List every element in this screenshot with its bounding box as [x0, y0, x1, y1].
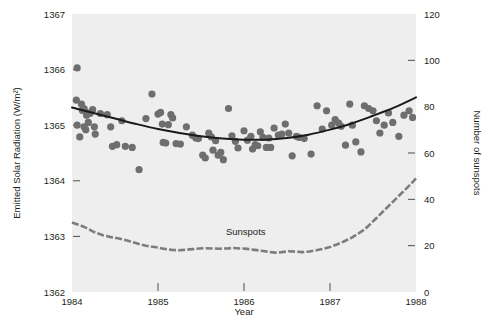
- y-tick-label-1367: 1367: [44, 9, 65, 20]
- x-tick-label-1985: 1985: [147, 296, 168, 307]
- scatter-point: [74, 122, 81, 129]
- scatter-point: [220, 156, 227, 163]
- y2-tick-label-80: 80: [424, 101, 435, 112]
- scatter-point: [278, 131, 285, 138]
- scatter-point: [165, 121, 172, 128]
- y2-tick-label-20: 20: [424, 240, 435, 251]
- scatter-point: [342, 142, 349, 149]
- scatter-point: [177, 141, 184, 148]
- x-tick-label-1988: 1988: [405, 296, 426, 307]
- scatter-point: [240, 127, 247, 134]
- scatter-point: [135, 166, 142, 173]
- scatter-point: [142, 115, 149, 122]
- scatter-point: [122, 143, 129, 150]
- scatter-point: [91, 123, 98, 130]
- scatter-point: [225, 105, 232, 112]
- scatter-point: [282, 120, 289, 127]
- scatter-point: [113, 141, 120, 148]
- scatter-point: [409, 114, 416, 121]
- scatter-point: [271, 124, 278, 131]
- scatter-point: [406, 107, 413, 114]
- y2-axis-title: Number of sunspots: [472, 110, 483, 195]
- scatter-point: [202, 154, 209, 161]
- scatter-point: [157, 109, 164, 116]
- scatter-point: [289, 152, 296, 159]
- scatter-point: [129, 144, 136, 151]
- scatter-point: [169, 114, 176, 121]
- scatter-point: [209, 147, 216, 154]
- y2-tick-label-40: 40: [424, 194, 435, 205]
- scatter-point: [395, 133, 402, 140]
- solar-radiation-sunspots-chart: 136213631364136513661367 020406080100120…: [0, 0, 495, 335]
- scatter-point: [76, 133, 83, 140]
- scatter-point: [85, 119, 92, 126]
- scatter-point: [314, 102, 321, 109]
- y2-tick-label-120: 120: [424, 9, 440, 20]
- scatter-point: [217, 149, 224, 156]
- plot-area-background: [72, 14, 416, 292]
- scatter-point: [381, 122, 388, 129]
- scatter-point: [376, 129, 383, 136]
- y-tick-label-1363: 1363: [44, 231, 65, 242]
- scatter-point: [357, 148, 364, 155]
- scatter-point: [234, 144, 241, 151]
- scatter-point: [107, 123, 114, 130]
- scatter-point: [323, 107, 330, 114]
- scatter-point: [369, 107, 376, 114]
- annotation-sunspots: Sunspots: [226, 226, 266, 237]
- y-axis-title: Emitted Solar Radiation (W/m²): [11, 87, 22, 218]
- scatter-point: [148, 90, 155, 97]
- scatter-point: [267, 144, 274, 151]
- x-tick-label-1987: 1987: [319, 296, 340, 307]
- y-tick-label-1366: 1366: [44, 64, 65, 75]
- scatter-point: [183, 123, 190, 130]
- x-axis-title: Year: [234, 306, 253, 317]
- scatter-point: [74, 64, 81, 71]
- chart-annotations: Sunspots: [226, 226, 266, 237]
- scatter-point: [352, 138, 359, 145]
- y-tick-label-1365: 1365: [44, 120, 65, 131]
- scatter-point: [254, 142, 261, 149]
- scatter-point: [82, 126, 89, 133]
- scatter-point: [389, 119, 396, 126]
- y2-tick-label-100: 100: [424, 55, 440, 66]
- y2-tick-label-60: 60: [424, 148, 435, 159]
- scatter-point: [162, 139, 169, 146]
- scatter-point: [285, 129, 292, 136]
- scatter-point: [346, 100, 353, 107]
- y-tick-label-1364: 1364: [44, 175, 65, 186]
- scatter-point: [373, 117, 380, 124]
- x-tick-label-1984: 1984: [61, 296, 82, 307]
- scatter-point: [307, 151, 314, 158]
- scatter-point: [92, 131, 99, 138]
